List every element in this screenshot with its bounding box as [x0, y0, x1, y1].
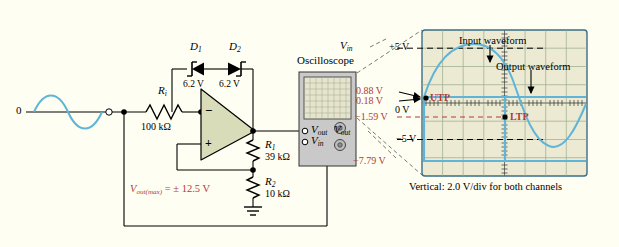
trip-point-callout-arrows: [399, 92, 420, 101]
diode-D1-value: 6.2 V: [183, 80, 204, 90]
scope-screen: [397, 30, 587, 176]
screen-channel-vin-sub: in: [347, 44, 353, 53]
scope-jack-label-vin: Vin: [311, 135, 324, 147]
voltage-marker-018: 0.18 V: [356, 96, 383, 106]
diode-D2-value: 6.2 V: [219, 80, 240, 90]
vout-max-sub: out(max): [136, 188, 162, 196]
oscilloscope-body: [299, 72, 356, 166]
resistor-R2-name: R2: [265, 176, 275, 188]
divider-R1: [247, 131, 259, 170]
scope-jack-vin-sub: in: [318, 139, 324, 148]
oscilloscope-title: Oscilloscope: [297, 55, 354, 66]
vout-max-label: Vout(max) = ± 12.5 V: [130, 184, 210, 196]
screen-channel-vout-sub: out: [341, 128, 351, 137]
input-zero-label: 0: [16, 105, 22, 116]
diode-D1-sub: 1: [198, 45, 202, 54]
voltage-marker-minus779: −7.79 V: [353, 156, 386, 166]
ltp-dot: [502, 114, 507, 119]
opamp-inverting-sign: −: [205, 104, 212, 117]
input-signal-sine: [26, 96, 112, 129]
diode-D2-name: D2: [229, 41, 241, 53]
ltp-label: LTP: [510, 112, 529, 122]
resistor-R1-name: R1: [265, 139, 275, 151]
opamp-noninverting-sign: +: [205, 137, 212, 149]
voltage-marker-plus5: +5 V: [389, 42, 409, 52]
voltage-marker-minus159: −1.59 V: [355, 112, 388, 122]
input-terminal-node: [106, 109, 112, 115]
diode-D2-sub: 2: [237, 45, 241, 54]
resistor-R1-value: 39 kΩ: [265, 152, 290, 162]
figure-canvas: 0 Ri 100 kΩ D1 6.2 V D2 6.2 V − + R1 39 …: [0, 0, 619, 247]
divider-R2: [247, 170, 259, 207]
vout-max-value: = ± 12.5 V: [165, 183, 210, 194]
screen-channel-label-vin: Vin: [340, 40, 353, 52]
resistor-Ri-value: 100 kΩ: [141, 122, 171, 132]
voltage-marker-minus5: −5 V: [396, 134, 416, 144]
resistor-Ri-name: Ri: [158, 85, 167, 97]
utp-dot: [423, 95, 428, 100]
input-waveform-annotation: Input waveform: [459, 36, 526, 47]
ground-symbol: [244, 207, 262, 215]
diode-D1: [187, 62, 204, 76]
output-waveform-annotation: Output waveform: [496, 62, 570, 73]
resistor-R2-value: 10 kΩ: [265, 189, 290, 199]
utp-label: UTP: [430, 93, 450, 103]
screen-channel-label-vout: Vout: [334, 124, 350, 136]
diode-D1-name: D1: [190, 41, 202, 53]
scope-jack-vout[interactable]: [302, 128, 308, 134]
scope-jack-vin[interactable]: [302, 139, 308, 145]
resistor-Ri-sub: i: [165, 89, 167, 98]
voltage-marker-zero: 0 V: [395, 105, 410, 115]
scope-caption: Vertical: 2.0 V/div for both channels: [409, 182, 562, 193]
input-resistor-Ri: [112, 105, 201, 119]
